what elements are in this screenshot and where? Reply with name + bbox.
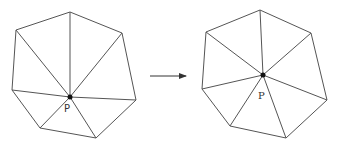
right-point-p <box>261 73 266 78</box>
spoke-edge <box>263 33 311 75</box>
spoke-edge <box>206 32 263 75</box>
left-polygon <box>12 12 136 138</box>
spoke-edge <box>70 97 96 138</box>
spoke-edge <box>260 10 263 75</box>
diagram-canvas: P P <box>0 0 338 146</box>
spoke-edge <box>16 30 70 97</box>
right-point-label: P <box>258 90 265 101</box>
right-figure: P <box>202 10 327 138</box>
left-point-p <box>68 95 73 100</box>
left-figure: P <box>12 12 136 138</box>
spoke-edge <box>202 75 263 89</box>
spoke-edge <box>263 75 327 100</box>
spoke-edge <box>263 75 286 138</box>
spoke-edge <box>12 90 70 97</box>
left-point-label: P <box>64 103 70 114</box>
spoke-edge <box>70 33 122 97</box>
spoke-edge <box>70 97 136 100</box>
